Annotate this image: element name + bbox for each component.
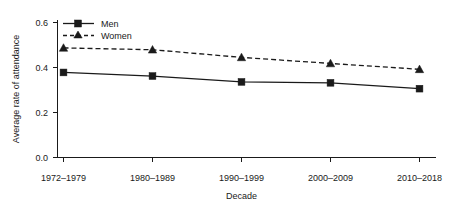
series-markers-women	[59, 44, 423, 73]
legend-marker-square-icon	[75, 20, 82, 27]
series-markers-men	[60, 69, 423, 92]
chart-page: 0.0 0.2 0.4 0.6 1972–1979 1980–1989 1990…	[0, 0, 463, 217]
y-tick-group: 0.0 0.2 0.4 0.6	[35, 18, 57, 163]
y-tick-label-2: 0.4	[35, 63, 48, 73]
data-point-marker-triangle	[148, 46, 156, 54]
x-tick-group: 1972–1979 1980–1989 1990–1999 2000–2009 …	[41, 158, 442, 184]
data-point-marker-square	[327, 79, 334, 86]
legend-marker-triangle-icon	[74, 31, 82, 38]
x-tick-label-3: 2000–2009	[308, 173, 353, 183]
y-tick-label-3: 0.6	[35, 18, 48, 28]
legend-item-women: Women	[63, 31, 132, 41]
x-axis-title: Decade	[226, 191, 257, 201]
data-point-marker-triangle	[237, 53, 245, 61]
legend-item-men: Men	[63, 19, 119, 29]
data-point-marker-square	[149, 73, 156, 80]
data-point-marker-square	[60, 69, 67, 76]
legend-label-women: Women	[101, 31, 132, 41]
chart-legend: Men Women	[63, 19, 132, 41]
x-tick-label-4: 2010–2018	[397, 173, 442, 183]
data-point-marker-square	[416, 85, 423, 92]
data-point-marker-square	[238, 79, 245, 86]
x-tick-label-1: 1980–1989	[130, 173, 175, 183]
x-tick-label-2: 1990–1999	[219, 173, 264, 183]
y-tick-label-1: 0.2	[35, 108, 48, 118]
line-chart: 0.0 0.2 0.4 0.6 1972–1979 1980–1989 1990…	[0, 0, 463, 217]
y-axis-title: Average rate of attendance	[11, 35, 21, 143]
y-tick-label-0: 0.0	[35, 153, 48, 163]
legend-label-men: Men	[101, 19, 119, 29]
x-tick-label-0: 1972–1979	[41, 173, 86, 183]
